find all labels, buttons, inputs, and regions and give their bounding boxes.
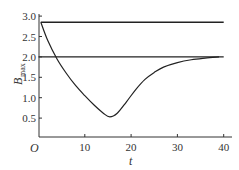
svg-text:max: max	[18, 63, 27, 77]
y-axis-label: B max	[11, 63, 27, 85]
x-tick-label: 10	[79, 141, 91, 153]
svg-text:B: B	[11, 77, 25, 85]
x-tick-label: 20	[126, 141, 138, 153]
y-tick-label: 1.0	[22, 92, 36, 104]
plot-area	[39, 22, 224, 117]
x-tick-label: 30	[172, 141, 184, 153]
x-axis-label: t	[129, 154, 133, 168]
y-tick-label: 0.5	[22, 112, 36, 124]
chart: 0.51.01.52.02.53.0 10203040 O t B max	[0, 0, 239, 170]
origin-label: O	[30, 141, 39, 155]
y-tick-label: 2.5	[22, 31, 36, 43]
bmax-curve	[41, 22, 219, 117]
x-tick-label: 40	[218, 141, 230, 153]
y-tick-label: 3.0	[22, 10, 36, 22]
y-tick-label: 2.0	[22, 51, 36, 63]
